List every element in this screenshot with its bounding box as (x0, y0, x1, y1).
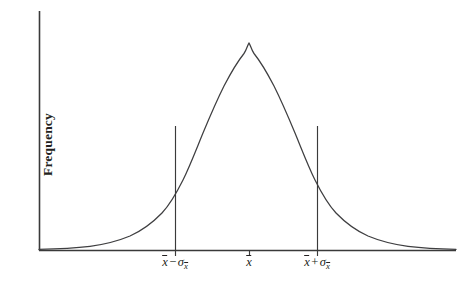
x-tick-label-plus-one-sigma: x+σx (304, 256, 330, 271)
mean-symbol: x (246, 256, 252, 269)
plot-area (0, 0, 465, 289)
normal-distribution-figure: Frequency x−σx x x+σx (0, 0, 465, 289)
operator-symbol: − (168, 255, 178, 269)
mean-symbol: x (162, 256, 168, 269)
sigma-subscript: x (184, 262, 188, 271)
sigma-subscript: x (326, 262, 330, 271)
x-tick-label-minus-one-sigma: x−σx (162, 256, 188, 271)
x-tick-label-mean: x (246, 256, 252, 269)
distribution-curve (39, 43, 456, 249)
mean-symbol: x (304, 256, 310, 269)
operator-symbol: + (310, 255, 320, 269)
